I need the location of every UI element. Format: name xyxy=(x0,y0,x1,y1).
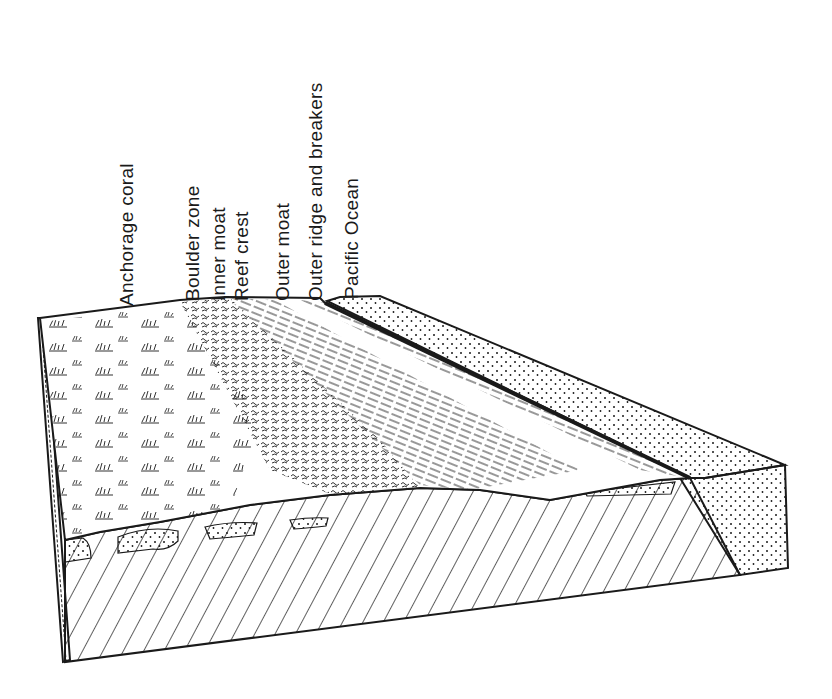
label-boulder-zone: Boulder zone xyxy=(183,185,202,301)
label-outer-moat: Outer moat xyxy=(273,203,292,301)
label-reef-crest: Reef crest xyxy=(232,211,251,301)
reef-illustration xyxy=(0,0,832,699)
label-inner-moat: Inner moat xyxy=(209,207,228,301)
label-anchorage-coral: Anchorage coral xyxy=(117,163,136,306)
label-pacific-ocean: Pacific Ocean xyxy=(342,178,361,299)
reef-block-diagram: Anchorage coral Boulder zone Inner moat … xyxy=(0,0,832,699)
label-outer-ridge-and-breakers: Outer ridge and breakers xyxy=(306,83,325,301)
